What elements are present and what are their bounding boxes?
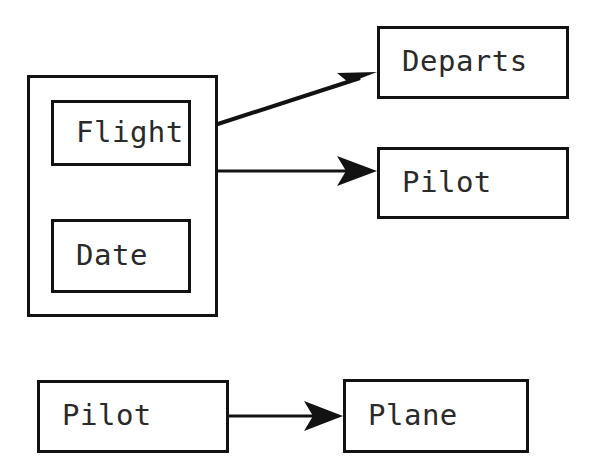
node-departs-label: Departs: [380, 47, 528, 76]
edge-group-to-pilot[interactable]: [217, 156, 377, 186]
node-departs[interactable]: Departs: [377, 26, 569, 99]
node-pilot-top-label: Pilot: [380, 168, 492, 197]
node-pilot-bottom-label: Pilot: [40, 401, 152, 430]
arrowhead-icon: [333, 72, 377, 89]
node-date[interactable]: Date: [51, 219, 191, 293]
node-plane-label: Plane: [346, 401, 458, 430]
node-pilot-bottom[interactable]: Pilot: [37, 380, 229, 453]
node-date-label: Date: [54, 241, 148, 270]
diagram-canvas: Flight Date Departs Pilot Pilot Plane: [0, 0, 594, 471]
edge-flight-to-departs[interactable]: [190, 72, 377, 133]
edge-pilot-to-plane[interactable]: [229, 401, 343, 431]
node-flight-label: Flight: [54, 118, 184, 147]
node-plane[interactable]: Plane: [343, 379, 529, 453]
node-pilot-top[interactable]: Pilot: [377, 147, 569, 219]
node-flight[interactable]: Flight: [51, 100, 191, 166]
